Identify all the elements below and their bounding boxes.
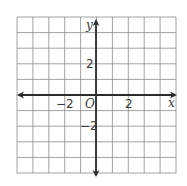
y-tick-label-neg-2: −2 [80,120,98,132]
axes [17,19,177,177]
y-tick-label-2: 2 [86,58,94,70]
x-tick-label-neg-2: −2 [56,98,74,110]
coordinate-plane [0,0,187,186]
origin-label: O [85,98,95,110]
x-tick-label-2: 2 [125,98,133,110]
y-axis-label: y [86,19,93,31]
x-axis-label: x [168,97,175,109]
